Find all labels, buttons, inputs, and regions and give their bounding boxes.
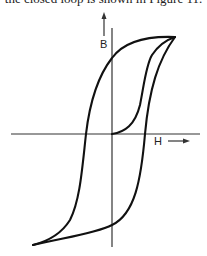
- h-axis-label: H: [154, 135, 162, 147]
- h-arrow-head: [183, 139, 190, 144]
- hysteresis-diagram: B H: [0, 0, 207, 256]
- b-arrow-head: [102, 12, 107, 19]
- b-axis-label: B: [100, 38, 107, 50]
